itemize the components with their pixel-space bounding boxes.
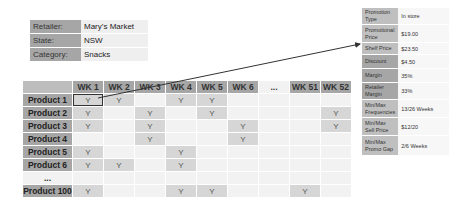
grid-cell[interactable] (228, 107, 258, 119)
promo-value: $19.00 (398, 25, 449, 43)
grid-cell[interactable] (321, 146, 351, 158)
grid-cell[interactable] (228, 94, 258, 106)
grid-cell[interactable] (104, 107, 134, 119)
grid-cell[interactable] (166, 172, 196, 184)
grid-cell[interactable]: Y (73, 120, 103, 132)
promo-row: Discount$4.50 (362, 55, 449, 69)
grid-cell[interactable] (197, 120, 227, 132)
grid-cell[interactable]: Y (228, 120, 258, 132)
grid-cell[interactable]: Y (228, 133, 258, 145)
promo-value: 13/26 Weeks (398, 100, 449, 118)
grid-cell[interactable] (228, 172, 258, 184)
grid-row: Product 4YY (23, 133, 351, 145)
grid-cell[interactable] (259, 133, 289, 145)
grid-cell[interactable]: Y (73, 159, 103, 171)
grid-cell[interactable] (228, 159, 258, 171)
grid-cell[interactable] (197, 172, 227, 184)
grid-cell[interactable]: Y (135, 107, 165, 119)
promo-value: 2/6 Weeks (398, 136, 449, 156)
grid-cell[interactable]: Y (166, 159, 196, 171)
grid-cell[interactable]: Y (135, 133, 165, 145)
grid-cell[interactable]: Y (104, 94, 134, 106)
grid-cell[interactable]: Y (166, 94, 196, 106)
grid-row: Product 100YYYY (23, 185, 351, 197)
product-label: Product 2 (23, 107, 72, 119)
promotion-details-table: Promotion TypeIn storePromotional Price$… (362, 8, 449, 156)
promotion-week-grid: WK 1WK 2WK 3WK 4WK 5WK 6...WK 51WK 52 Pr… (22, 80, 352, 198)
grid-cell[interactable] (321, 172, 351, 184)
grid-cell[interactable] (259, 94, 289, 106)
grid-cell[interactable] (197, 159, 227, 171)
promo-row: Retailer Margin33% (362, 83, 449, 100)
grid-cell[interactable] (290, 146, 320, 158)
promo-row: Margin35% (362, 69, 449, 83)
product-label: Product 5 (23, 146, 72, 158)
grid-cell[interactable] (290, 159, 320, 171)
grid-cell[interactable]: Y (321, 107, 351, 119)
grid-cell[interactable] (290, 94, 320, 106)
grid-cell[interactable] (73, 133, 103, 145)
grid-cell[interactable]: Y (73, 107, 103, 119)
grid-cell[interactable]: Y (166, 146, 196, 158)
promo-row: Promotional Price$19.00 (362, 25, 449, 43)
grid-cell[interactable] (290, 107, 320, 119)
grid-cell[interactable] (166, 107, 196, 119)
info-value: Mary’s Market (81, 20, 148, 34)
grid-cell[interactable]: Y (73, 185, 103, 197)
grid-cell[interactable] (104, 185, 134, 197)
grid-cell[interactable] (166, 120, 196, 132)
grid-cell[interactable]: Y (321, 120, 351, 132)
grid-cell[interactable] (259, 159, 289, 171)
product-label: Product 1 (23, 94, 72, 106)
grid-cell[interactable] (166, 133, 196, 145)
grid-cell[interactable] (104, 172, 134, 184)
promo-label: Min/Max Frequencies (362, 100, 398, 118)
grid-cell[interactable] (321, 185, 351, 197)
grid-cell[interactable] (197, 146, 227, 158)
grid-cell[interactable] (135, 146, 165, 158)
grid-cell[interactable] (228, 185, 258, 197)
grid-cell[interactable] (104, 146, 134, 158)
grid-cell[interactable] (135, 94, 165, 106)
grid-cell[interactable] (104, 133, 134, 145)
promo-label: Min/Max Sell Price (362, 118, 398, 136)
info-value: Snacks (81, 48, 148, 62)
grid-cell[interactable]: Y (166, 185, 196, 197)
grid-cell[interactable] (197, 133, 227, 145)
grid-cell[interactable] (259, 120, 289, 132)
grid-cell[interactable] (259, 146, 289, 158)
grid-cell[interactable] (290, 133, 320, 145)
grid-cell[interactable] (228, 146, 258, 158)
grid-cell[interactable]: Y (290, 185, 320, 197)
info-value: NSW (81, 34, 148, 48)
grid-cell[interactable]: Y (73, 94, 103, 106)
grid-corner (23, 81, 72, 93)
promo-value: $4.50 (398, 55, 449, 69)
grid-column-header: WK 5 (197, 81, 227, 93)
grid-cell[interactable] (321, 94, 351, 106)
grid-cell[interactable] (290, 172, 320, 184)
grid-cell[interactable]: Y (73, 146, 103, 158)
grid-cell[interactable] (259, 185, 289, 197)
grid-cell[interactable] (135, 159, 165, 171)
grid-cell[interactable] (73, 172, 103, 184)
promo-value: 35% (398, 69, 449, 83)
grid-cell[interactable] (290, 120, 320, 132)
product-label: Product 3 (23, 120, 72, 132)
grid-cell[interactable]: Y (197, 107, 227, 119)
grid-cell[interactable]: Y (197, 185, 227, 197)
grid-cell[interactable] (321, 133, 351, 145)
grid-cell[interactable] (321, 159, 351, 171)
grid-cell[interactable] (104, 120, 134, 132)
grid-cell[interactable] (259, 172, 289, 184)
promo-label: Promotion Type (362, 8, 398, 25)
grid-cell[interactable]: Y (104, 159, 134, 171)
grid-cell[interactable]: Y (135, 120, 165, 132)
promo-label: Min/Max Promo Gap (362, 136, 398, 156)
grid-header-row: WK 1WK 2WK 3WK 4WK 5WK 6...WK 51WK 52 (23, 81, 351, 93)
promo-row: Min/Max Frequencies13/26 Weeks (362, 100, 449, 118)
grid-cell[interactable] (259, 107, 289, 119)
grid-cell[interactable] (135, 185, 165, 197)
grid-cell[interactable] (135, 172, 165, 184)
grid-cell[interactable]: Y (197, 94, 227, 106)
